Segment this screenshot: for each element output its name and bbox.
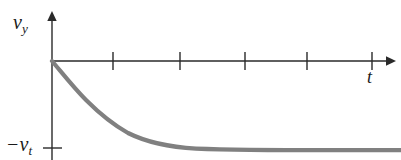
y-axis-label: vy	[13, 12, 28, 35]
x-axis-label: t	[367, 68, 372, 86]
y-axis-arrowhead-icon	[47, 11, 56, 21]
chart-canvas	[0, 0, 401, 160]
velocity-curve	[52, 61, 401, 150]
x-axis-arrowhead-icon	[386, 56, 396, 66]
y-axis-label-symbol: v	[13, 11, 22, 33]
y-axis-tick-label-symbol: −v	[6, 133, 28, 155]
velocity-time-chart: vy t −vt	[0, 0, 401, 160]
y-axis-tick-label-subscript: t	[28, 143, 32, 158]
y-axis-label-subscript: y	[22, 21, 28, 36]
y-axis-tick-label: −vt	[6, 134, 32, 157]
